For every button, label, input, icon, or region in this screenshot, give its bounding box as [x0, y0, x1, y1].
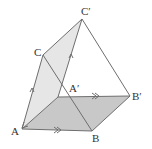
label-A-prime: A′: [69, 82, 79, 94]
prism-diagram: A B C A′ B′ C′: [0, 0, 152, 149]
label-B: B: [92, 132, 99, 144]
label-C-prime: C′: [81, 5, 91, 17]
label-C: C: [34, 46, 41, 58]
edge-CprimeBprime: [82, 19, 130, 96]
diagram-canvas: A B C A′ B′ C′: [0, 0, 152, 149]
label-B-prime: B′: [132, 90, 142, 102]
label-A: A: [11, 125, 19, 137]
